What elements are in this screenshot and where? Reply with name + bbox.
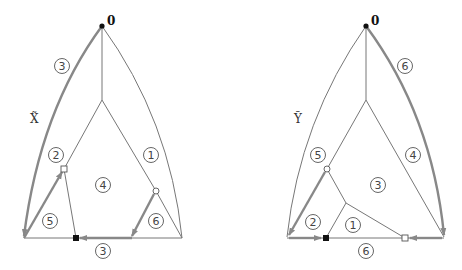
region-label: 5 xyxy=(311,148,326,163)
region-label: 4 xyxy=(406,148,421,163)
svg-text:4: 4 xyxy=(410,149,417,162)
region-label: 3 xyxy=(96,244,111,259)
open-circle-node xyxy=(324,166,330,172)
arrow-from-circle xyxy=(132,194,154,236)
region-label: 2 xyxy=(306,215,321,230)
region-label: 6 xyxy=(398,59,413,74)
diagram-canvas: 0 X̃ 3 2 1 4 5 6 3 xyxy=(0,0,462,270)
open-square-node xyxy=(61,166,67,172)
apex-node xyxy=(99,23,104,28)
region-label: 3 xyxy=(371,178,386,193)
apex-label: 0 xyxy=(107,14,115,28)
svg-text:6: 6 xyxy=(363,245,370,258)
svg-text:2: 2 xyxy=(310,216,317,229)
junction-filled-edge xyxy=(326,203,346,238)
region-label: 3 xyxy=(55,59,70,74)
inner-left-edge xyxy=(327,100,366,169)
svg-text:1: 1 xyxy=(148,149,155,162)
svg-text:1: 1 xyxy=(350,219,357,232)
inner-right-edge xyxy=(102,100,156,191)
square-edge xyxy=(64,169,76,238)
left-outer-arc xyxy=(24,26,102,236)
svg-text:6: 6 xyxy=(402,60,409,73)
region-label: 6 xyxy=(149,214,164,229)
svg-text:3: 3 xyxy=(375,179,382,192)
svg-text:5: 5 xyxy=(47,215,54,228)
svg-text:4: 4 xyxy=(100,179,107,192)
circle-junction-edge xyxy=(327,169,346,203)
left-diagram: 0 X̃ 3 2 1 4 5 6 3 xyxy=(24,14,182,259)
svg-text:6: 6 xyxy=(153,215,160,228)
region-label: 6 xyxy=(359,244,374,259)
space-name: X̃ xyxy=(30,111,39,126)
region-labels: 3 2 1 4 5 6 3 xyxy=(43,59,164,259)
right-diagram: 0 Ỹ 6 5 4 3 2 1 6 xyxy=(287,14,444,259)
svg-text:3: 3 xyxy=(59,60,66,73)
filled-square-node xyxy=(323,235,329,241)
open-square-node xyxy=(402,235,408,241)
left-outer-arc xyxy=(287,26,366,237)
right-outer-arc xyxy=(102,26,182,238)
region-label: 5 xyxy=(43,214,58,229)
region-label: 1 xyxy=(346,218,361,233)
svg-text:5: 5 xyxy=(315,149,322,162)
inner-left-edge xyxy=(64,100,102,169)
space-name: Ỹ xyxy=(293,111,303,126)
filled-square-node xyxy=(73,235,79,241)
apex-node xyxy=(363,23,368,28)
open-circle-node xyxy=(153,188,159,194)
svg-text:2: 2 xyxy=(53,149,60,162)
region-label: 2 xyxy=(49,148,64,163)
apex-label: 0 xyxy=(371,14,379,28)
region-label: 1 xyxy=(144,148,159,163)
region-label: 4 xyxy=(96,178,111,193)
right-outer-arc xyxy=(366,26,444,235)
svg-text:3: 3 xyxy=(100,245,107,258)
